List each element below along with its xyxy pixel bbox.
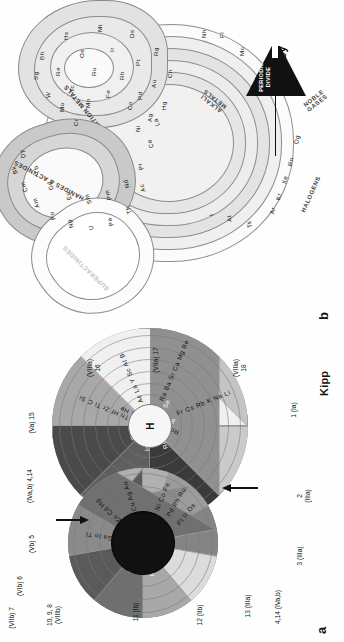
benfey-transition-element: Os [78, 49, 85, 58]
benfey-transition-element: Pt [134, 59, 141, 66]
benfey-spiral-element: Og [292, 134, 301, 145]
benfey-spiral-element: At [225, 215, 233, 223]
kipp-group-label-6: (VIb) 6 [16, 566, 24, 606]
benfey-transition-element: Tc [68, 85, 75, 92]
periodic-divide-arrow-icon [268, 36, 282, 58]
panel-kipp: a Kipp Fr Cs Rb K Na Li R [0, 324, 344, 642]
kipp-group-label-5: (Vb) 5 [28, 524, 36, 564]
benfey-transition-element: Mn [84, 98, 91, 108]
benfey-transition-element: Ds [128, 29, 135, 38]
benfey-spiral-element: Rn [286, 157, 295, 167]
kipp-group-label-2: 2 (IIIa) [296, 476, 312, 516]
kipp-group-label-4-14-b: (IVa,b) 4,14 [26, 456, 34, 516]
benfey-transition-element: Sg [32, 71, 39, 80]
figure-canvas: a Kipp Fr Cs Rb K Na Li R [0, 0, 344, 642]
kipp-arrow-lower [222, 484, 258, 492]
periodic-divide-line [275, 88, 276, 156]
benfey-transition-element: Hs [62, 31, 69, 40]
benfey-spiral-element: Nh [200, 29, 207, 38]
benfey-transition-element: Ru [90, 67, 97, 76]
kipp-group-label-15: (Va) 15 [28, 400, 36, 446]
benfey-transition-element: Co [126, 101, 133, 110]
benfey-transition-element: Au [150, 79, 157, 88]
benfey-transition-element: Ni [134, 125, 141, 132]
kipp-group-label-12: 12 (IIb) [196, 594, 204, 636]
benfey-spiral-element: Fl [218, 32, 225, 38]
kipp-group-label-10-9-8: 10, 9, 8 (VIIIb) [46, 592, 62, 638]
benfey-transition-element: Pd [136, 91, 143, 100]
benfey-spiral-element: Ar [268, 206, 276, 214]
benfey-label-halogens: HALOGENS [300, 175, 321, 213]
benfey-transition-element: Cr [72, 118, 79, 126]
rotated-figure: a Kipp Fr Cs Rb K Na Li R [0, 0, 344, 642]
kipp-group-label-11: 11 (Ib) [132, 592, 140, 632]
kipp-group-label-17: (VIIa) 17 [152, 336, 160, 384]
kipp-group-label-18: (VIIIa) 18 [232, 348, 248, 388]
benfey-transition-element: Re [54, 67, 61, 76]
kipp-group-label-16: (VIIIa) 16 [86, 348, 102, 388]
benfey-transition-element: Hg [160, 101, 167, 110]
benfey-transition-element: Cn [166, 69, 173, 78]
benfey-transition-element: Rh [118, 71, 125, 80]
kipp-group-label-1: 1 (Ia) [290, 390, 298, 430]
panel-letter-a: a [314, 627, 329, 634]
kipp-black-hub [111, 511, 175, 575]
periodic-divide-label: PERIODIC DIVIDE [258, 60, 272, 94]
kipp-group-label-4-14: 4,14 (IVa,b) [274, 578, 282, 636]
kipp-group-label-7: (VIIb) 7 [8, 596, 16, 640]
benfey-transition-element: W [44, 92, 51, 98]
benfey-transition-lobe-hole [64, 48, 114, 88]
benfey-spiral-element: Xe [280, 175, 289, 185]
kipp-group-label-3: 3 (IIIa) [296, 534, 304, 578]
benfey-transition-element: Ir [108, 47, 115, 52]
panel-benfey: b Benfey TRANSITION METALS LANTHANIDES &… [0, 0, 344, 324]
kipp-center-hydrogen: H [128, 404, 172, 448]
caption-kipp: Kipp [318, 371, 330, 396]
benfey-transition-element: Mt [96, 24, 103, 32]
kipp-group-label-13: 13 (IIIa) [244, 584, 252, 628]
kipp-arrow-upper [56, 516, 90, 524]
benfey-transition-element: Rg [152, 47, 159, 56]
benfey-spiral-element: Ts [245, 220, 253, 228]
benfey-spiral-element: Mc [238, 47, 245, 56]
benfey-label-noble-gases: NOBLE GASES [302, 88, 328, 112]
benfey-transition-element: Fe [104, 90, 111, 98]
panel-letter-b: b [316, 312, 331, 320]
benfey-transition-element: Bh [38, 51, 45, 60]
benfey-spiral-element: Kr [274, 192, 282, 200]
benfey-transition-element: Mo [58, 102, 65, 112]
